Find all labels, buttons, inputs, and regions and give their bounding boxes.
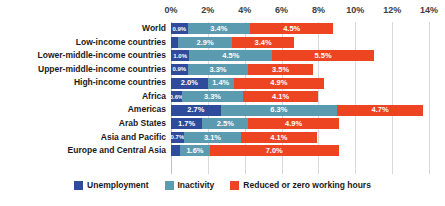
bar-segment-inactivity: 2.5%	[202, 118, 248, 129]
category-label: Lower-middle-income countries	[0, 49, 166, 62]
bar-segment-reduced-or-zero-working-hours: 5.5%	[272, 50, 373, 61]
x-axis-tick-label: 0%	[164, 5, 177, 15]
stacked-bar: 2.7%6.3%4.7%	[171, 105, 423, 116]
segment-value-label: 2.0%	[181, 79, 198, 87]
bar-segment-inactivity: 3.3%	[188, 64, 249, 75]
bar-segment-inactivity: 1.4%	[208, 78, 234, 89]
chart-row: Arab States1.7%2.5%4.9%	[0, 117, 445, 130]
bar-segment-unemployment: 2.7%	[171, 105, 221, 116]
stacked-bar: 0.9%3.3%3.5%	[171, 64, 313, 75]
segment-value-label: 3.1%	[204, 134, 221, 142]
segment-value-label: 2.9%	[197, 39, 214, 47]
chart-row: High-income countries2.0%1.4%4.9%	[0, 76, 445, 89]
stacked-bar: 0.7%3.1%4.1%	[171, 132, 317, 143]
segment-value-label: 4.5%	[283, 25, 300, 33]
segment-value-label: 4.5%	[222, 52, 239, 60]
stacked-bar: 0.6%3.3%4.1%	[171, 91, 318, 102]
legend-swatch-icon	[74, 181, 83, 190]
segment-value-label: 4.1%	[272, 93, 289, 101]
segment-value-label: 2.7%	[187, 106, 204, 114]
stacked-bar: 0.4%2.9%3.4%	[171, 37, 294, 48]
bar-segment-unemployment: 0.4%	[171, 37, 178, 48]
bar-segment-inactivity: 3.3%	[182, 91, 243, 102]
chart-row: Asia and Pacific0.7%3.1%4.1%	[0, 131, 445, 144]
bar-segment-reduced-or-zero-working-hours: 3.4%	[232, 37, 295, 48]
legend-label: Unemployment	[87, 180, 148, 190]
bar-segment-unemployment: 1.7%	[171, 118, 202, 129]
x-axis-tick-label: 4%	[238, 5, 251, 15]
legend-swatch-icon	[165, 181, 174, 190]
x-axis-tick-label: 8%	[312, 5, 325, 15]
segment-value-label: 3.4%	[210, 25, 227, 33]
stacked-bar: 2.0%1.4%4.9%	[171, 78, 324, 89]
category-label: Low-income countries	[0, 36, 166, 49]
chart-legend: UnemploymentInactivityReduced or zero wo…	[0, 180, 445, 190]
legend-label: Inactivity	[178, 180, 215, 190]
segment-value-label: 1.6%	[186, 147, 203, 155]
x-axis-tick-label: 14%	[420, 5, 438, 15]
segment-value-label: 1.0%	[173, 53, 187, 59]
segment-value-label: 1.4%	[212, 79, 229, 87]
segment-value-label: 3.3%	[204, 93, 221, 101]
chart-row: Low-income countries0.4%2.9%3.4%	[0, 36, 445, 49]
chart-rows: World0.9%3.4%4.5%Low-income countries0.4…	[0, 22, 445, 174]
stacked-bar: 1.7%2.5%4.9%	[171, 118, 339, 129]
category-label: Upper-middle-income countries	[0, 63, 166, 76]
category-label: High-income countries	[0, 76, 166, 89]
legend-item[interactable]: Reduced or zero working hours	[230, 180, 371, 190]
category-label: World	[0, 22, 166, 35]
stacked-bar-chart: 0%2%4%6%8%10%12%14% World0.9%3.4%4.5%Low…	[0, 0, 445, 206]
bar-segment-unemployment: 0.6%	[171, 91, 182, 102]
legend-label: Reduced or zero working hours	[243, 180, 371, 190]
segment-value-label: 3.4%	[255, 39, 272, 47]
segment-value-label: 0.9%	[172, 66, 186, 72]
x-axis-tick-label: 12%	[383, 5, 401, 15]
segment-value-label: 3.3%	[209, 66, 226, 74]
segment-value-label: 4.1%	[270, 134, 287, 142]
chart-row: Americas2.7%6.3%4.7%	[0, 103, 445, 116]
segment-value-label: 0.7%	[171, 134, 185, 140]
bar-segment-inactivity: 3.1%	[184, 132, 241, 143]
segment-value-label: 0.9%	[172, 26, 186, 32]
legend-item[interactable]: Inactivity	[165, 180, 215, 190]
bar-segment-unemployment: 1.0%	[171, 50, 189, 61]
category-label: Asia and Pacific	[0, 131, 166, 144]
chart-row: Europe and Central Asia0.5%1.6%7.0%	[0, 144, 445, 157]
bar-segment-unemployment: 0.5%	[171, 145, 180, 156]
x-axis: 0%2%4%6%8%10%12%14%	[171, 5, 429, 19]
category-label: Africa	[0, 90, 166, 103]
stacked-bar: 0.5%1.6%7.0%	[171, 145, 339, 156]
category-label: Europe and Central Asia	[0, 144, 166, 157]
segment-value-label: 2.5%	[217, 120, 234, 128]
category-label: Americas	[0, 103, 166, 116]
bar-segment-reduced-or-zero-working-hours: 4.1%	[241, 132, 317, 143]
x-axis-tick-label: 10%	[346, 5, 364, 15]
bar-segment-reduced-or-zero-working-hours: 4.5%	[250, 23, 333, 34]
bar-segment-unemployment: 2.0%	[171, 78, 208, 89]
segment-value-label: 5.5%	[314, 52, 331, 60]
chart-row: Africa0.6%3.3%4.1%	[0, 90, 445, 103]
chart-row: Upper-middle-income countries0.9%3.3%3.5…	[0, 63, 445, 76]
bar-segment-reduced-or-zero-working-hours: 4.9%	[248, 118, 338, 129]
legend-item[interactable]: Unemployment	[74, 180, 148, 190]
bar-segment-inactivity: 3.4%	[188, 23, 251, 34]
category-label: Arab States	[0, 117, 166, 130]
segment-value-label: 4.7%	[372, 106, 389, 114]
stacked-bar: 1.0%4.5%5.5%	[171, 50, 374, 61]
segment-value-label: 3.5%	[272, 66, 289, 74]
x-axis-tick-label: 2%	[201, 5, 214, 15]
segment-value-label: 4.9%	[285, 120, 302, 128]
bar-segment-reduced-or-zero-working-hours: 4.7%	[337, 105, 424, 116]
bar-segment-reduced-or-zero-working-hours: 7.0%	[210, 145, 339, 156]
segment-value-label: 6.3%	[270, 106, 287, 114]
chart-row: World0.9%3.4%4.5%	[0, 22, 445, 35]
segment-value-label: 1.7%	[178, 120, 195, 128]
bar-segment-reduced-or-zero-working-hours: 3.5%	[248, 64, 313, 75]
stacked-bar: 0.9%3.4%4.5%	[171, 23, 333, 34]
bar-segment-unemployment: 0.9%	[171, 23, 188, 34]
bar-segment-reduced-or-zero-working-hours: 4.1%	[243, 91, 319, 102]
bar-segment-reduced-or-zero-working-hours: 4.9%	[234, 78, 324, 89]
x-axis-tick-label: 6%	[275, 5, 288, 15]
bar-segment-unemployment: 0.9%	[171, 64, 188, 75]
bar-segment-inactivity: 2.9%	[178, 37, 231, 48]
